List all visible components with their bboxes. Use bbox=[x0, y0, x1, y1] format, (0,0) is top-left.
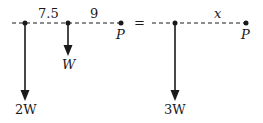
distance-9-label: 9 bbox=[90, 6, 98, 21]
distance-7-5-label: 7.5 bbox=[38, 6, 59, 21]
right-system: 3W x P bbox=[152, 6, 250, 117]
force-2w-label: 2W bbox=[15, 102, 37, 117]
distance-x-label: x bbox=[214, 6, 222, 21]
equals-sign: = bbox=[134, 15, 145, 30]
force-w-arrowhead-icon bbox=[64, 45, 73, 56]
force-w-label: W bbox=[62, 57, 77, 72]
moment-diagram: 2W W 7.5 9 P = 3W x P bbox=[0, 0, 263, 123]
left-point-p-dot bbox=[119, 21, 124, 26]
right-point-p-dot bbox=[244, 21, 249, 26]
force-3w-arrowhead-icon bbox=[171, 90, 180, 101]
right-point-p-label: P bbox=[240, 27, 250, 42]
left-point-p-label: P bbox=[115, 27, 125, 42]
diagram-svg: 2W W 7.5 9 P = 3W x P bbox=[0, 0, 263, 123]
force-2w-arrowhead-icon bbox=[21, 90, 30, 101]
force-3w-label: 3W bbox=[164, 102, 186, 117]
left-system: 2W W 7.5 9 P bbox=[12, 6, 125, 117]
